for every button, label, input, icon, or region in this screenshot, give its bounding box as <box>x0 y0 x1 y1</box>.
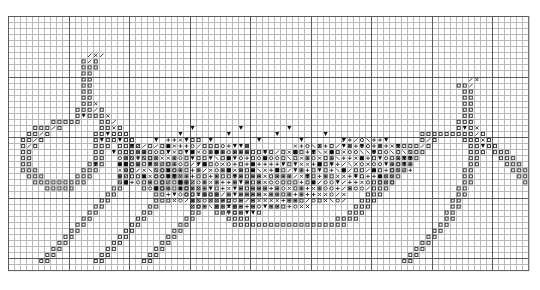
pattern-grid-canvas <box>0 0 540 290</box>
cross-stitch-chart: Cross-stitch style pattern chart: dense … <box>0 0 540 290</box>
